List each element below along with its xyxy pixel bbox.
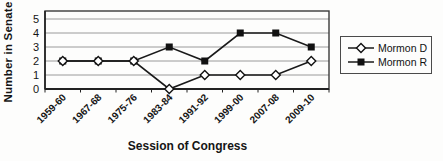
svg-text:1991-92: 1991-92 [176,91,210,125]
svg-text:1959-60: 1959-60 [34,91,68,125]
svg-text:2: 2 [33,55,39,67]
x-axis-title: Session of Congress [110,139,265,153]
svg-text:2009-10: 2009-10 [283,91,317,125]
chart-figure: Number in Senate 0123451959-601967-68197… [0,0,443,161]
open-diamond-marker-icon [347,42,375,54]
svg-text:1: 1 [33,69,39,81]
chart-plot: 0123451959-601967-681975-761983-841991-9… [20,5,340,155]
svg-text:4: 4 [33,27,39,39]
svg-text:1967-68: 1967-68 [70,91,104,125]
svg-text:3: 3 [33,41,39,53]
legend: Mormon D Mormon R [340,36,432,74]
svg-text:2007-08: 2007-08 [247,91,281,125]
svg-text:1975-76: 1975-76 [105,91,139,125]
legend-item-mormon-d: Mormon D [347,42,427,54]
svg-text:1999-00: 1999-00 [212,91,246,125]
legend-label-mormon-d: Mormon D [378,42,427,54]
legend-label-mormon-r: Mormon R [378,56,427,68]
y-axis-title: Number in Senate [2,0,18,112]
legend-item-mormon-r: Mormon R [347,56,427,68]
svg-text:0: 0 [33,83,39,95]
svg-text:5: 5 [33,13,39,25]
filled-square-marker-icon [347,56,375,68]
svg-text:1983-84: 1983-84 [141,91,175,125]
